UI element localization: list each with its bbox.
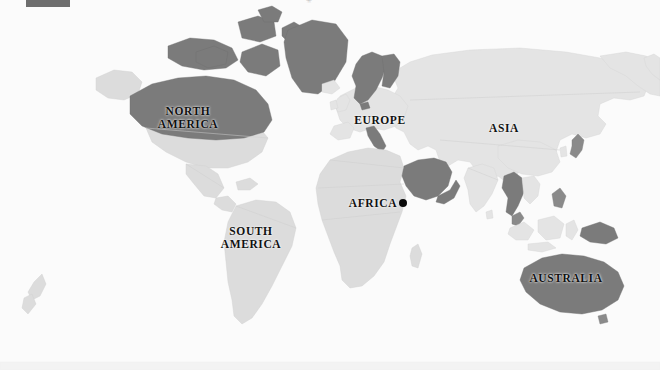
world-map: NORTH AMERICA EUROPE ASIA AFRICA SOUTH A… [0, 0, 660, 370]
label-south-america: SOUTH AMERICA [196, 225, 306, 251]
landmass-sri-lanka [486, 210, 493, 219]
legend-color-swatch [26, 0, 70, 7]
landmass-mexico [186, 164, 224, 198]
landmass-africa [316, 148, 406, 288]
landmass-korea [560, 146, 567, 157]
landmass-sulawesi [566, 220, 578, 240]
region-myanmar-thailand-highlight [502, 172, 524, 216]
label-asia: ASIA [469, 122, 539, 135]
region-greenland-highlight [284, 20, 348, 94]
landmass-indochina [522, 176, 540, 204]
landmass-india [464, 164, 498, 212]
location-marker-dot[interactable] [399, 199, 407, 207]
landmass-java [528, 242, 556, 252]
landmass-philippines [552, 188, 566, 208]
label-europe: EUROPE [335, 114, 425, 127]
landmass-borneo [538, 216, 564, 240]
region-japan-highlight [570, 134, 584, 158]
label-north-america: NORTH AMERICA [133, 105, 243, 131]
legend-caption [78, 0, 308, 7]
region-papua-new-guinea-highlight [580, 222, 618, 244]
landmass-antarctic-fringe [0, 362, 660, 370]
label-australia: AUSTRALIA [516, 272, 616, 285]
region-baffin-island [240, 44, 280, 76]
legend-asterisk-icon: ✳ [306, 0, 311, 4]
landmass-sumatra [508, 222, 534, 240]
landmass-central-america [214, 196, 236, 212]
landmass-south-america [224, 200, 296, 324]
map-vector-layer [0, 0, 660, 370]
landmass-madagascar [410, 244, 422, 268]
legend-strip: ✳ [0, 0, 660, 9]
region-tasmania-highlight [598, 314, 608, 324]
landmass-caribbean [236, 178, 258, 190]
